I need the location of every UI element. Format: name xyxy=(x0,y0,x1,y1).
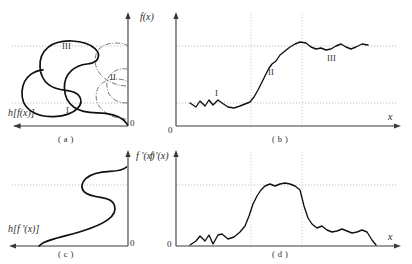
panel-a-origin-label: 0 xyxy=(130,119,135,128)
panel-b-y-axis-label: f(x) xyxy=(140,12,154,22)
panel-b-region-I-label: I xyxy=(215,89,218,98)
panel-d-caption: ( d ) xyxy=(272,250,288,259)
panel-a-region-III-label: III xyxy=(62,42,71,51)
panel-d-profile-curve xyxy=(190,183,376,245)
panel-b-region-III-label: III xyxy=(327,54,336,63)
panel-c-caption: ( c ) xyxy=(58,250,74,259)
panel-d-grid xyxy=(176,152,398,246)
panel-b-axes xyxy=(173,12,401,129)
panel-c-histogram-curve xyxy=(39,167,126,246)
panel-b-x-axis-label: x xyxy=(388,112,392,122)
panel-c-x-axis-label: h[f '(x)] xyxy=(8,224,39,234)
figure-canvas xyxy=(0,0,412,264)
panel-c-origin-label: 0 xyxy=(130,239,135,248)
panel-b-caption: ( b ) xyxy=(272,135,288,144)
panel-b-region-II-label: II xyxy=(268,68,274,77)
panel-b-profile-curve xyxy=(190,42,368,108)
panel-d-origin-label: 0 xyxy=(167,240,172,249)
panel-a-x-axis-label: h[f(x)] xyxy=(8,108,35,118)
panel-b-grid xyxy=(176,14,398,126)
panel-a-caption: ( a ) xyxy=(58,135,74,144)
figure-root: h[f(x)] 0 III II I ( a ) f(x) x 0 I II I… xyxy=(0,0,412,264)
panel-b-origin-label: 0 xyxy=(168,126,173,135)
panel-a-region-II-label: II xyxy=(110,73,116,82)
panel-d-axes xyxy=(173,150,401,249)
panel-a-histogram-curve xyxy=(22,41,128,125)
panel-d-y-axis-label: f '(x) xyxy=(150,151,169,161)
panel-a-region-I-label: I xyxy=(66,106,69,115)
panel-d-x-axis-label: x xyxy=(388,232,392,242)
